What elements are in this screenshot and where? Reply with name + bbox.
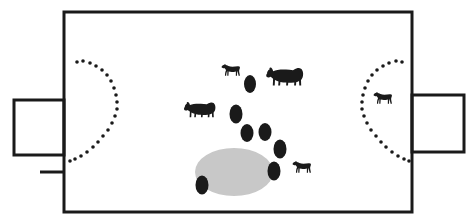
arc-dot — [374, 134, 378, 138]
annex-group — [14, 95, 464, 155]
arc-dot — [366, 79, 370, 83]
arc-dot — [360, 107, 364, 111]
arc-dot — [402, 157, 406, 161]
left-annex — [14, 100, 64, 155]
right-dotted-arc — [360, 59, 411, 163]
arc-dot — [360, 100, 364, 104]
arc-dot — [361, 93, 365, 97]
arc-dot — [110, 121, 114, 125]
dark-blob-3 — [241, 124, 254, 142]
left-dotted-arc — [68, 59, 119, 163]
arc-dot — [370, 73, 374, 77]
right-annex — [412, 95, 464, 152]
arc-dot — [105, 73, 109, 77]
figure-canvas — [0, 0, 474, 224]
site-plan-diagram — [0, 0, 474, 224]
arc-dot — [68, 159, 72, 163]
arc-dot — [381, 64, 385, 68]
arc-dot — [115, 107, 119, 111]
arc-dot — [384, 145, 388, 149]
arc-dot — [375, 68, 379, 72]
dark-blob-7 — [196, 176, 209, 195]
arc-dot — [394, 59, 398, 63]
arc-dot — [407, 159, 411, 163]
arc-dot — [387, 61, 391, 65]
arc-dot — [365, 121, 369, 125]
arc-dot — [114, 93, 118, 97]
arc-dot — [362, 114, 366, 118]
arc-dot — [115, 100, 119, 104]
arc-dot — [400, 60, 404, 64]
arc-dot — [379, 140, 383, 144]
dark-blob-4 — [259, 123, 272, 141]
arc-dot — [75, 60, 79, 64]
arc-dot — [101, 134, 105, 138]
arc-dot — [109, 79, 113, 83]
arc-dot — [91, 145, 95, 149]
arc-dot — [106, 128, 110, 132]
arc-dot — [363, 86, 367, 90]
arc-dot — [73, 157, 77, 161]
zebra-upper-center — [222, 64, 240, 76]
arc-dot — [85, 150, 89, 154]
rhino-mid-left — [184, 102, 215, 117]
arc-dot — [369, 128, 373, 132]
arc-dot — [100, 68, 104, 72]
arc-dot — [88, 61, 92, 65]
arc-dot — [396, 154, 400, 158]
zebra-right-arc — [374, 92, 392, 104]
zebra-lower-right — [293, 161, 311, 173]
rhino-upper-right — [266, 68, 303, 86]
dark-blob-6 — [268, 162, 281, 181]
arc-dot — [94, 64, 98, 68]
arc-dot — [96, 140, 100, 144]
arc-dot — [113, 114, 117, 118]
dark-blob-1 — [244, 75, 256, 93]
dark-blob-2 — [230, 105, 243, 124]
arc-dot — [112, 86, 116, 90]
dark-blob-5 — [274, 140, 287, 159]
arc-dot — [79, 154, 83, 158]
arc-dot — [390, 150, 394, 154]
arc-dot — [81, 59, 85, 63]
